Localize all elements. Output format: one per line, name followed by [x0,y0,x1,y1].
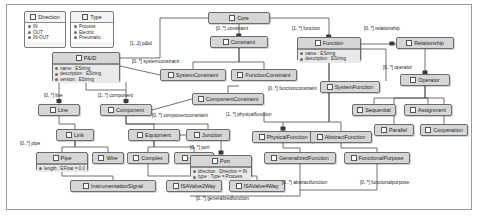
class-icon [410,107,416,113]
class-node-core[interactable]: Core [208,12,270,24]
class-node-parallel[interactable]: Parallel [374,124,414,136]
class-node-wire[interactable]: Wire [92,152,124,164]
class-attributes: name : EStringdescription : EStringversi… [53,64,119,83]
attribute-text: length : EFloat = 0.0 [44,166,85,171]
attribute-text: version : EString [60,77,94,82]
literal-bullet-icon [74,36,77,39]
edge-label-systemconstraint: [0..*] systemconstraint [132,59,179,64]
literal-bullet-icon [28,36,31,39]
class-node-constraint[interactable]: Constraint [210,36,268,48]
class-node-complex[interactable]: Complex [127,152,169,164]
class-node-operator[interactable]: Operator [400,74,450,86]
class-node-isavalve4way[interactable]: ISAValve4Way [229,180,285,192]
class-icon [50,107,56,113]
edge-label-core-relationship: [0..*] relationship [364,26,400,31]
class-header: Operator [401,75,449,85]
literal-bullet-icon [28,25,31,28]
class-header: Complex [128,153,168,163]
class-node-physicalfunction[interactable]: PhysicalFunction [252,131,314,143]
class-node-assignment[interactable]: Assignment [404,104,452,116]
class-name: PhysicalFunction [267,132,308,142]
class-name: SystemConstraint [176,70,219,80]
class-icon [83,183,89,189]
class-node-junction[interactable]: Junction [186,129,230,141]
class-name: Wire [106,153,117,163]
edge-label-pid-core: [1..1] p&id [130,41,152,46]
class-attribute: version : EString [55,77,117,82]
class-name: Link [74,130,84,140]
enum-header: Direction [25,12,65,23]
class-node-link[interactable]: Link [56,129,94,141]
enum-header: Type [71,12,113,23]
edge-label-functionconstraint: [0..*] functionconstraint [268,86,317,91]
class-node-componentconstraint[interactable]: ComponentConstraint [192,93,264,105]
class-node-port[interactable]: Portdirection : Direction = INtype : Typ… [190,155,252,177]
class-header: Equipment [129,130,179,140]
edge-label-pipe: [0..*] pipe [20,141,40,146]
class-header: AbstractFunction [311,132,371,142]
literal-bullet-icon [28,31,31,34]
class-node-equipment[interactable]: Equipment [128,129,180,141]
class-icon [271,155,277,161]
edge-label-physicalfunction: [1..*] physicalfunction [226,112,271,117]
enum-type[interactable]: Type Process Electric Pneumatic [70,11,114,48]
attribute-text: type : Type = Process [198,174,242,179]
class-icon [66,132,72,138]
class-attribute: type : Type = Process [193,174,249,179]
class-header: ComponentConstraint [193,94,263,104]
class-node-systemconstraint[interactable]: SystemConstraint [160,69,226,81]
class-node-generalizedfunction[interactable]: GeneralizedFunction [264,152,336,164]
class-icon [237,72,243,78]
class-name: Sequential [365,105,390,115]
class-node-isavalve2way[interactable]: ISAValve2Way [166,180,222,192]
class-node-instrumentationsignal[interactable]: InstrumentationSignal [70,180,156,192]
class-icon [173,183,179,189]
class-name: GeneralizedFunction [279,153,329,163]
class-node-pid[interactable]: P&IDname : EStringdescription : EStringv… [52,52,120,82]
class-header: Component [101,105,151,115]
class-name: P&ID [84,53,97,63]
class-header: PhysicalFunction [253,132,313,142]
class-name: FunctionConstraint [245,70,290,80]
enum-direction[interactable]: Direction IN OUT IN-OUT [24,11,66,48]
class-node-line[interactable]: Line [38,104,80,116]
class-header: Parallel [375,125,413,135]
class-node-functionconstraint[interactable]: FunctionConstraint [231,69,297,81]
class-icon [259,134,265,140]
class-name: Parallel [389,125,407,135]
class-header: SystemConstraint [161,70,225,80]
class-header: Sequential [353,105,395,115]
edge-label-rel-operator: [0..*] operator [383,65,412,70]
enum-literals: IN OUT IN-OUT [25,23,65,42]
edge-label-functionalpurpose: [0..*] functionalpurpose [360,180,409,185]
enum-literal: IN-OUT [25,35,65,41]
class-icon [137,132,143,138]
class-icon [168,72,174,78]
class-node-pipe[interactable]: Pipelength : EFloat = 0.0 [36,152,88,171]
literal-bullet-icon [74,25,77,28]
class-icon [410,77,416,83]
edge-label-port: [0..*] port [190,145,209,150]
class-name: ISAValve2Way [181,181,216,191]
class-node-functionalpurpose[interactable]: FunctionalPurpose [344,152,410,164]
class-node-systemfunction[interactable]: SystemFunction [320,81,380,93]
class-name: Complex [141,153,162,163]
class-node-cooperation[interactable]: Cooperation [420,124,468,136]
enum-icon [30,14,36,20]
edge-label-componentconstraint: [0..*] componentconstraint [152,113,208,118]
class-attribute: length : EFloat = 0.0 [39,166,85,171]
class-header: FunctionalPurpose [345,153,409,163]
class-header: InstrumentationSignal [71,181,155,191]
attribute-bullet-icon [193,170,196,173]
class-node-abstractfunction[interactable]: AbstractFunction [310,131,372,143]
class-header: Constraint [211,37,267,47]
class-header: GeneralizedFunction [265,153,335,163]
class-node-component[interactable]: Component [100,104,152,116]
class-node-sequential[interactable]: Sequential [352,104,396,116]
class-icon [194,132,200,138]
class-icon [236,183,242,189]
class-name: FunctionalPurpose [359,153,404,163]
edge-label-generalizedfunction: [0..*] generalizedfunction [196,196,249,201]
class-node-function[interactable]: Functionname : EStringdescription : EStr… [297,37,361,61]
class-node-relationship[interactable]: Relationship [396,37,454,49]
